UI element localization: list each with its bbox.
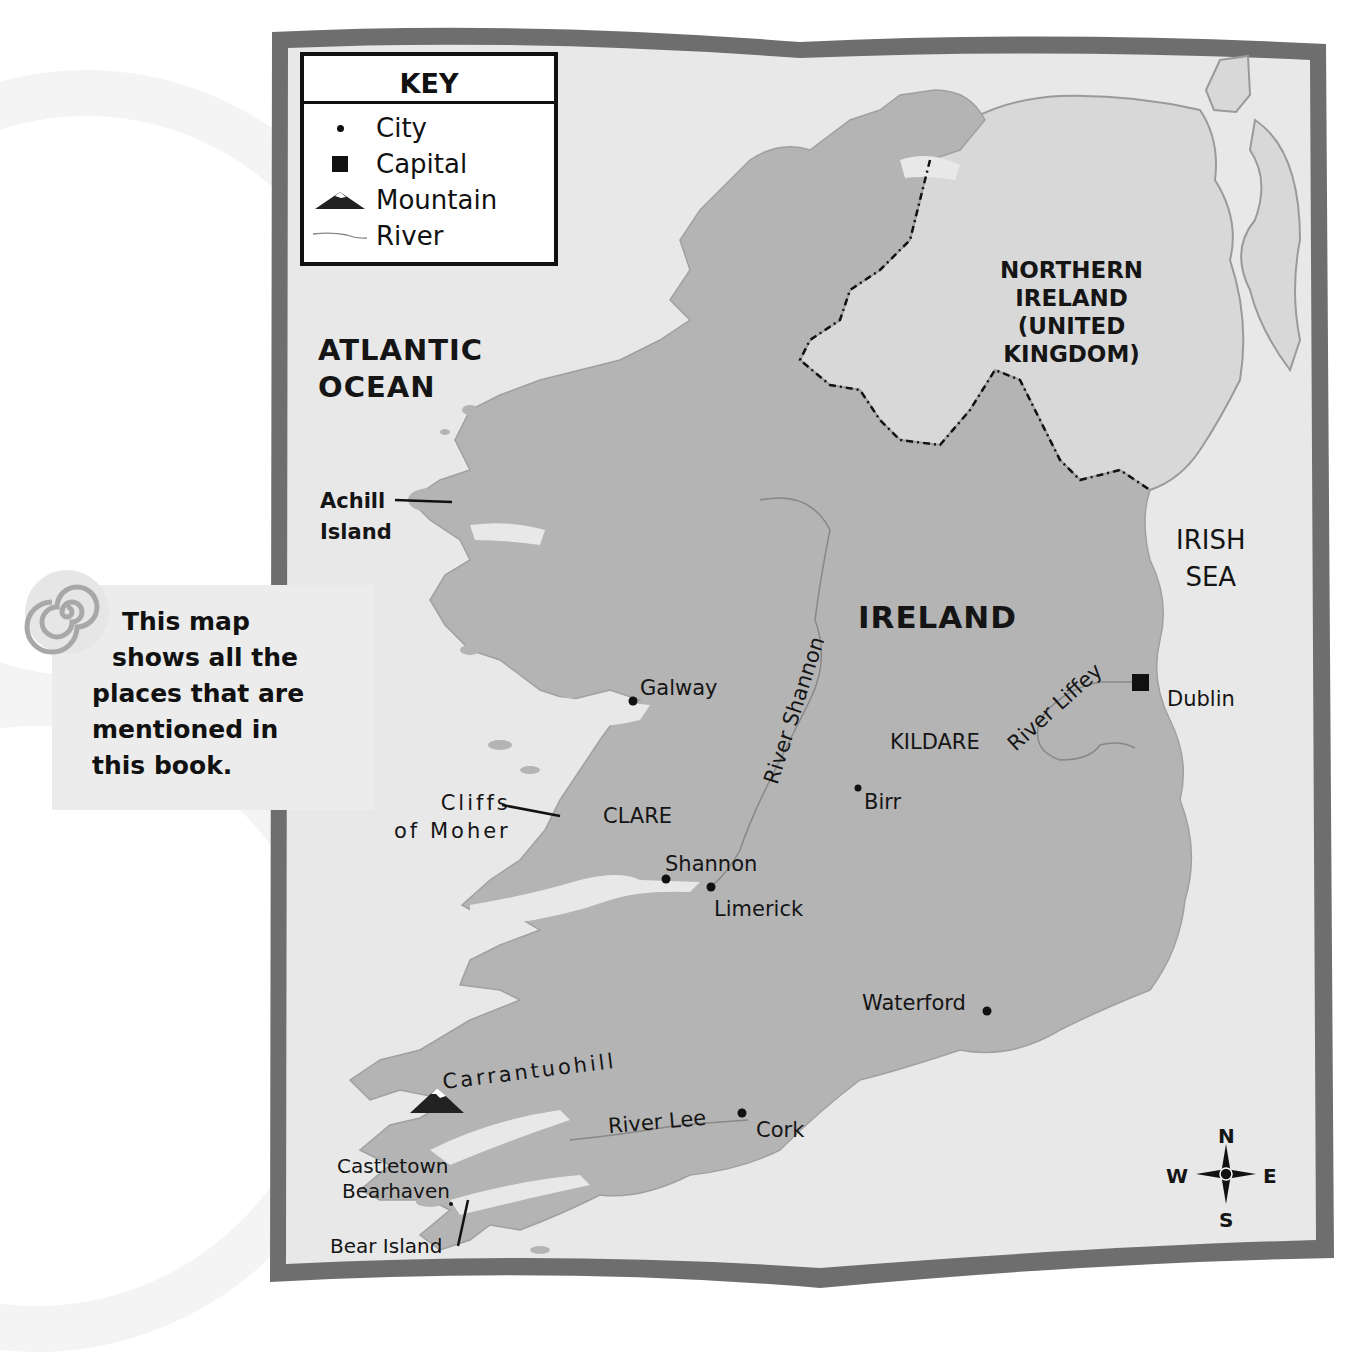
- clare-label: CLARE: [603, 806, 672, 827]
- key-label: Mountain: [376, 185, 497, 215]
- city-dot-galway: [629, 697, 638, 706]
- capital-square-icon: [332, 156, 348, 172]
- key-label: City: [376, 113, 427, 143]
- shannon-label: Shannon: [665, 854, 757, 875]
- waterford-label: Waterford: [862, 993, 966, 1014]
- river-line-icon: [312, 230, 368, 242]
- castletown-bearhaven-label: Castletown Bearhaven: [337, 1154, 450, 1204]
- island: [520, 766, 540, 774]
- achill-island-label: Achill Island: [320, 486, 392, 548]
- island: [462, 405, 478, 415]
- key-label: Capital: [376, 149, 467, 179]
- key-item-river: River: [304, 218, 554, 254]
- info-note-text: This map shows all the places that are m…: [92, 604, 304, 784]
- key-label: River: [376, 221, 443, 251]
- capital-square-dublin: [1132, 674, 1149, 691]
- compass-west: W: [1166, 1166, 1188, 1186]
- city-dot-cork: [738, 1109, 747, 1118]
- map-key: KEY City Capital Mountain River: [300, 52, 558, 266]
- dublin-label: Dublin: [1167, 689, 1235, 710]
- irish-sea-label: IRISH SEA: [1176, 522, 1245, 596]
- compass-rose: N S W E: [1160, 1124, 1280, 1234]
- birr-label: Birr: [864, 792, 901, 813]
- cork-label: Cork: [756, 1120, 804, 1141]
- city-dot-icon: [337, 125, 344, 132]
- compass-north: N: [1218, 1126, 1235, 1146]
- galway-label: Galway: [640, 678, 717, 699]
- key-item-city: City: [304, 110, 554, 146]
- compass-east: E: [1263, 1166, 1277, 1186]
- bear-island-label: Bear Island: [330, 1236, 442, 1256]
- island: [530, 1246, 550, 1254]
- city-dot-waterford: [983, 1007, 992, 1016]
- key-title: KEY: [304, 56, 554, 104]
- northern-ireland-label: NORTHERN IRELAND (UNITED KINGDOM): [1000, 256, 1143, 368]
- atlantic-ocean-label: ATLANTIC OCEAN: [318, 332, 483, 406]
- key-item-mountain: Mountain: [304, 182, 554, 218]
- limerick-label: Limerick: [714, 899, 803, 920]
- island: [488, 740, 512, 750]
- key-item-capital: Capital: [304, 146, 554, 182]
- island: [440, 429, 450, 435]
- city-dot-birr: [855, 785, 862, 792]
- ireland-label: IRELAND: [858, 602, 1017, 633]
- city-dot-limerick: [707, 883, 716, 892]
- mountain-icon: [314, 190, 366, 210]
- island: [460, 645, 480, 655]
- compass-south: S: [1219, 1210, 1233, 1230]
- kildare-label: KILDARE: [890, 732, 980, 753]
- cliffs-of-moher-label: Cliffs of Moher: [394, 789, 511, 845]
